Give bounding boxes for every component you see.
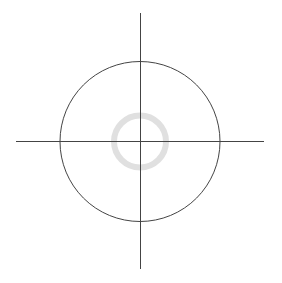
crosshair-diagram (0, 0, 282, 283)
